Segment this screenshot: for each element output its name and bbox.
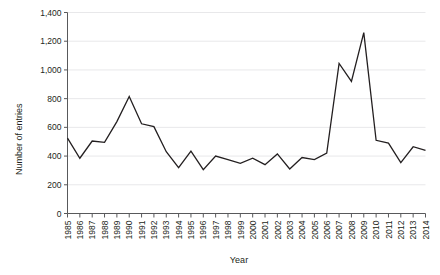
x-tick-label: 2008 (347, 220, 357, 239)
x-tick-label: 2009 (359, 220, 369, 239)
data-series (68, 33, 426, 170)
chart-plot-area: 02004006008001,0001,2001,400 19851986198… (0, 0, 440, 275)
y-tick-label: 200 (47, 180, 61, 190)
y-axis: 02004006008001,0001,2001,400 (40, 8, 67, 219)
y-tick-label: 600 (47, 122, 61, 132)
y-tick-label: 1,200 (40, 36, 62, 46)
y-tick-label: 1,400 (40, 8, 62, 18)
x-tick-label: 1986 (75, 220, 85, 239)
x-axis: 1985198619871988198919901991199219931994… (63, 214, 431, 240)
x-tick-label: 1985 (63, 220, 73, 239)
x-axis-title: Year (0, 255, 440, 265)
x-tick-label: 1994 (174, 220, 184, 239)
x-tick-label: 2005 (310, 220, 320, 239)
x-tick-label: 1992 (149, 220, 159, 239)
x-tick-label: 2010 (371, 220, 381, 239)
y-tick-label: 1,000 (40, 65, 62, 75)
x-tick-label: 1997 (211, 220, 221, 239)
x-tick-label: 1995 (186, 220, 196, 239)
x-tick-label: 1999 (236, 220, 246, 239)
x-tick-label: 1998 (223, 220, 233, 239)
x-tick-label: 1987 (87, 220, 97, 239)
x-tick-label: 2003 (285, 220, 295, 239)
y-tick-label: 400 (47, 151, 61, 161)
x-tick-label: 1989 (112, 220, 122, 239)
x-tick-label: 2002 (273, 220, 283, 239)
x-tick-label: 2011 (384, 220, 394, 239)
x-tick-label: 1990 (124, 220, 134, 239)
y-tick-label: 800 (47, 94, 61, 104)
y-tick-label: 0 (57, 209, 62, 219)
x-tick-label: 2014 (421, 220, 431, 239)
x-tick-label: 1996 (198, 220, 208, 239)
x-tick-label: 2001 (260, 220, 270, 239)
x-tick-label: 1991 (137, 220, 147, 239)
x-tick-label: 2004 (297, 220, 307, 239)
x-tick-label: 1988 (100, 220, 110, 239)
x-tick-label: 2006 (322, 220, 332, 239)
x-tick-label: 2013 (408, 220, 418, 239)
series-line-number-of-entries (68, 33, 426, 170)
x-tick-label: 2007 (334, 220, 344, 239)
x-tick-label: 2000 (248, 220, 258, 239)
x-tick-label: 2012 (396, 220, 406, 239)
x-tick-label: 1993 (161, 220, 171, 239)
line-chart: Number of entries 02004006008001,0001,20… (0, 0, 440, 275)
